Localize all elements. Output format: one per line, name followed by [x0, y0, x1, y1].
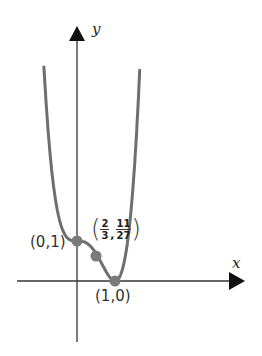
x-axis-label: x: [232, 254, 240, 272]
point-1-0: [110, 276, 121, 287]
point-label-0-1: (0,1): [30, 233, 66, 251]
close-paren: ): [131, 215, 140, 243]
y-denominator: 27: [117, 230, 131, 241]
function-plot: [0, 0, 262, 356]
open-paren: (: [91, 215, 100, 243]
x-fraction: 23: [100, 218, 109, 241]
y-numerator: 11: [116, 218, 132, 230]
y-axis-label: y: [92, 20, 100, 38]
point-label-inflection: (23,1127): [91, 215, 141, 243]
point-inflection: [91, 251, 102, 262]
x-denominator: 3: [101, 230, 108, 241]
point-0-1: [72, 236, 83, 247]
y-axis-arrow-icon: [69, 26, 85, 41]
y-fraction: 1127: [116, 218, 132, 241]
point-label-1-0: (1,0): [95, 287, 131, 305]
comma: ,: [110, 228, 114, 241]
x-axis-arrow-icon: [229, 272, 245, 290]
x-numerator: 2: [100, 218, 109, 230]
